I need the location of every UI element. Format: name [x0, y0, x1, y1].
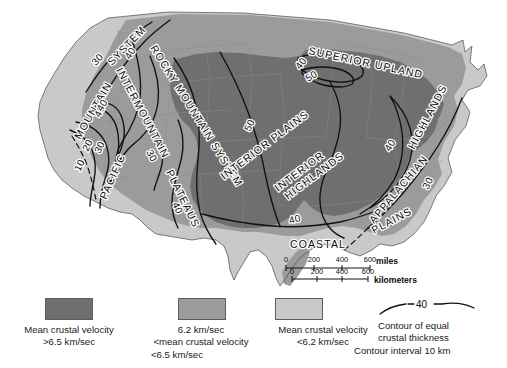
scale-miles-label-0: 0 — [284, 255, 288, 264]
scale-miles-label-600: 600 — [364, 255, 376, 264]
scale-km-label-200: 200 — [311, 267, 323, 276]
scale-km-unit: kilometers — [374, 275, 417, 285]
legend-contour-graphic: 40 — [378, 298, 504, 318]
legend-text-high-2: >6.5 km/sec — [4, 336, 134, 348]
legend-item-velocity-low: Mean crustal velocity <6.2 km/sec — [262, 298, 384, 349]
legend-text-contour-1: Contour of equal — [378, 320, 506, 332]
usa-map-graphic: PACIFIC MOUNTAIN SYSTEM INTERMOUNTAIN PL… — [0, 0, 507, 296]
legend-swatch-velocity-high — [45, 298, 93, 320]
legend-text-mid-1: 6.2 km/sec — [133, 324, 269, 336]
scale-miles-label-200: 200 — [308, 255, 320, 264]
legend-text-mid-3: <6.5 km/sec — [133, 349, 269, 361]
scale-km-label-0: 0 — [290, 267, 294, 276]
map-legend: Mean crustal velocity >6.5 km/sec 6.2 km… — [0, 296, 507, 368]
legend-text-contour-3: Contour interval 10 km — [354, 345, 506, 357]
label-coastal: COASTAL — [290, 238, 346, 250]
legend-contour-sample: 40 — [378, 298, 506, 318]
legend-swatch-velocity-mid — [178, 298, 226, 320]
legend-text-low-1: Mean crustal velocity — [262, 324, 384, 336]
legend-text-contour-2: crustal thickness — [378, 332, 506, 344]
scale-km-label-400: 400 — [336, 267, 348, 276]
scale-miles-label-400: 400 — [336, 255, 348, 264]
legend-swatch-velocity-low — [275, 298, 323, 320]
scale-miles-unit: miles — [376, 256, 398, 266]
legend-text-mid-2: <mean crustal velocity — [133, 336, 269, 348]
legend-text-high-1: Mean crustal velocity — [4, 324, 134, 336]
legend-contour-value: 40 — [416, 299, 428, 310]
legend-item-velocity-mid: 6.2 km/sec <mean crustal velocity <6.5 k… — [133, 298, 269, 361]
legend-item-velocity-high: Mean crustal velocity >6.5 km/sec — [4, 298, 134, 349]
scale-km-label-600: 600 — [362, 267, 374, 276]
legend-item-contour-key: 40 Contour of equal crustal thickness Co… — [378, 298, 506, 357]
crustal-thickness-map-figure: PACIFIC MOUNTAIN SYSTEM INTERMOUNTAIN PL… — [0, 0, 507, 368]
